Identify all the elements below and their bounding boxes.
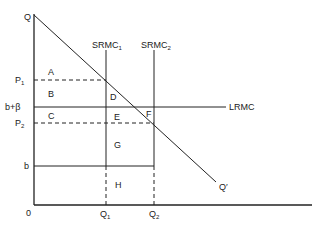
demand-line (34, 15, 216, 182)
lrmc-label: LRMC (229, 102, 255, 112)
region-a-label: A (48, 67, 54, 77)
region-h-label: H (115, 180, 122, 190)
region-c-label: C (48, 111, 55, 121)
q-axis-label: Q (24, 12, 31, 22)
region-e-label: E (114, 112, 120, 122)
p1-label: P1 (15, 75, 25, 86)
p2-label: P2 (15, 118, 25, 129)
q1-label: Q1 (100, 209, 111, 220)
srmc2-label: SRMC2 (141, 40, 172, 51)
q-prime-label: Q′ (219, 182, 228, 192)
region-g-label: G (114, 140, 121, 150)
b-plus-beta-label: b+β (5, 102, 20, 112)
origin-label: 0 (26, 208, 31, 218)
region-f-label: F (146, 109, 152, 119)
q2-label: Q2 (149, 209, 160, 220)
b-label: b (24, 161, 29, 171)
region-b-label: B (48, 89, 54, 99)
region-d-label: D (110, 92, 117, 102)
marginal-cost-diagram: Q 0 Q′ P1 b+β P2 b Q1 Q2 SRMC1 SRMC2 LRM… (0, 0, 325, 227)
srmc1-label: SRMC1 (92, 40, 123, 51)
